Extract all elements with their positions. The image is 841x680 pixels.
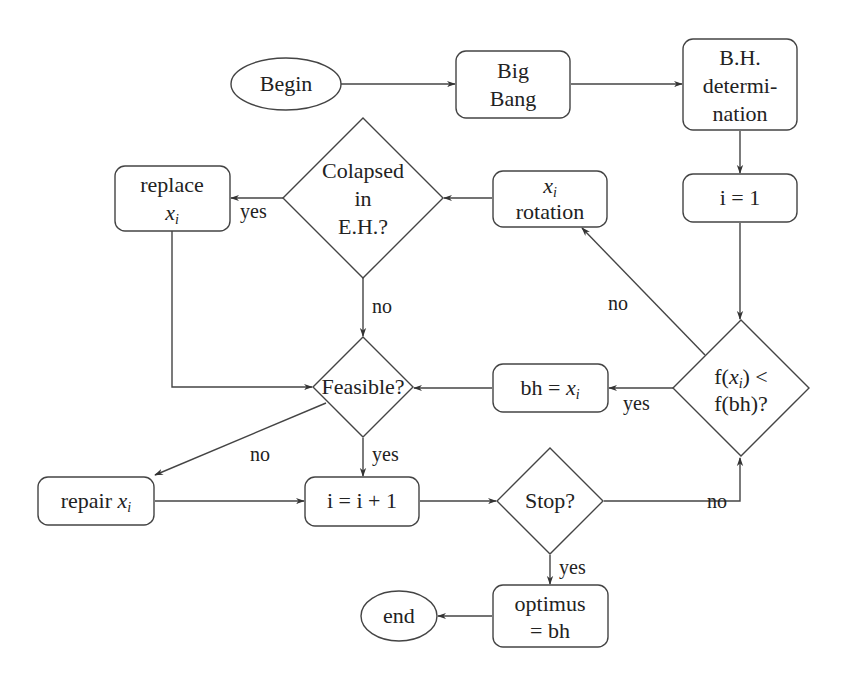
node-bh-determination: B.H. determi- nation bbox=[683, 39, 797, 130]
node-bh-assign: bh = xi bbox=[493, 364, 608, 412]
node-optimus-line2: = bh bbox=[530, 618, 570, 643]
node-bh-determination-line2: determi- bbox=[703, 73, 778, 98]
label-feasible-no: no bbox=[250, 443, 270, 465]
node-i-init: i = 1 bbox=[683, 174, 797, 222]
label-stop-no: no bbox=[707, 490, 727, 512]
node-compare-decision: f(xi) < f(bh)? bbox=[673, 320, 809, 456]
label-collapsed-yes: yes bbox=[240, 200, 267, 223]
label-compare-yes: yes bbox=[623, 392, 650, 415]
edge-feasible-to-repair bbox=[155, 403, 326, 475]
edge-replace-to-feasible bbox=[172, 231, 312, 387]
node-bh-determination-line3: nation bbox=[713, 101, 768, 126]
node-optimus: optimus = bh bbox=[493, 585, 608, 647]
node-big-bang-line1: Big bbox=[497, 58, 529, 83]
node-replace-xi: replace xi bbox=[115, 166, 230, 231]
label-stop-yes: yes bbox=[559, 556, 586, 579]
node-optimus-line1: optimus bbox=[515, 591, 586, 616]
flowchart-canvas: Begin Big Bang B.H. determi- nation i = … bbox=[0, 0, 841, 680]
node-feasible-label: Feasible? bbox=[321, 374, 404, 399]
node-i-init-label: i = 1 bbox=[720, 185, 761, 210]
node-i-increment-label: i = i + 1 bbox=[327, 488, 397, 513]
node-collapsed-line3: E.H.? bbox=[338, 214, 388, 239]
node-replace-xi-line1: replace bbox=[140, 172, 204, 197]
edges bbox=[155, 84, 740, 616]
node-begin-label: Begin bbox=[260, 71, 313, 96]
node-collapsed-line2: in bbox=[354, 186, 371, 211]
node-big-bang: Big Bang bbox=[456, 51, 570, 118]
node-big-bang-line2: Bang bbox=[490, 86, 536, 111]
node-end-label: end bbox=[383, 603, 415, 628]
edge-compare-to-xi-rotation bbox=[582, 228, 705, 355]
node-collapsed-decision: Colapsed in E.H.? bbox=[283, 118, 443, 278]
label-collapsed-no: no bbox=[372, 295, 392, 317]
node-repair-xi-label: repair xi bbox=[61, 488, 132, 515]
label-feasible-yes: yes bbox=[372, 443, 399, 466]
node-begin: Begin bbox=[231, 58, 341, 110]
node-compare-line2: f(bh)? bbox=[714, 391, 768, 416]
node-stop-decision: Stop? bbox=[497, 448, 603, 554]
node-repair-xi: repair xi bbox=[38, 477, 154, 525]
node-end: end bbox=[361, 591, 437, 641]
node-feasible-decision: Feasible? bbox=[313, 337, 413, 437]
node-bh-determination-line1: B.H. bbox=[719, 45, 761, 70]
node-i-increment: i = i + 1 bbox=[305, 477, 419, 526]
label-compare-no: no bbox=[608, 292, 628, 314]
node-bh-assign-label: bh = xi bbox=[520, 375, 579, 402]
node-xi-rotation-line2: rotation bbox=[516, 199, 584, 224]
node-stop-label: Stop? bbox=[525, 488, 575, 513]
node-xi-rotation: xi rotation bbox=[493, 171, 607, 227]
node-collapsed-line1: Colapsed bbox=[322, 158, 404, 183]
